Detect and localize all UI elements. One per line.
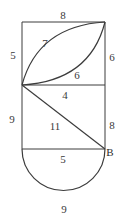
label-lower-left-edge: 9	[9, 114, 15, 125]
label-semicircle: 9	[61, 204, 67, 215]
label-lower-arc: 6	[74, 70, 80, 81]
label-bottom-edge: 5	[60, 154, 66, 165]
figure-canvas	[0, 0, 120, 219]
label-upper-arc: 7	[42, 38, 48, 49]
label-lower-right-edge: 8	[109, 120, 115, 131]
geometry-figure: 8 5 6 7 6 4 9 8 11 5 9 B	[0, 0, 120, 219]
label-upper-left-edge: 5	[10, 50, 16, 61]
label-point-b: B	[106, 147, 113, 158]
label-upper-right-edge: 6	[109, 52, 115, 63]
label-top-edge: 8	[60, 10, 66, 21]
label-middle-edge: 4	[62, 90, 68, 101]
label-diagonal: 11	[50, 121, 61, 132]
